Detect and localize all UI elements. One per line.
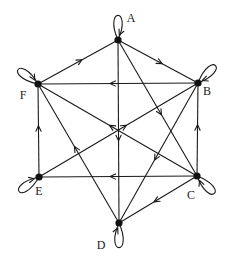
- edge-line: [38, 84, 119, 223]
- node-A: [114, 36, 121, 43]
- loop-curve: [115, 223, 123, 248]
- edge-line: [197, 83, 198, 176]
- edge-line: [39, 176, 197, 177]
- node-label-D: D: [97, 238, 106, 252]
- edge-C-to-B: [195, 83, 200, 176]
- edge-line: [38, 40, 118, 84]
- node-label-F: F: [20, 88, 27, 102]
- self-loop-D: [113, 223, 123, 248]
- edge-line: [118, 40, 119, 223]
- node-label-E: E: [35, 184, 42, 198]
- edge-C-to-E: [39, 174, 197, 179]
- directed-graph: ABCDEF: [0, 0, 233, 261]
- self-loop-F: [18, 68, 38, 84]
- edge-B-to-D: [119, 83, 198, 223]
- node-B: [194, 79, 201, 86]
- edge-E-to-F: [36, 84, 41, 177]
- loop-curve: [197, 176, 215, 194]
- self-loop-C: [197, 176, 215, 194]
- edge-line: [38, 84, 39, 177]
- self-loop-B: [198, 65, 216, 83]
- edge-C-to-D: [119, 176, 197, 223]
- edge-line: [119, 83, 198, 223]
- loop-curve: [114, 15, 122, 40]
- self-loop-A: [114, 15, 124, 40]
- node-E: [35, 173, 42, 180]
- loop-curve: [198, 65, 216, 83]
- edge-F-to-A: [38, 40, 118, 84]
- edge-line: [119, 176, 197, 223]
- edges-group: [36, 40, 200, 223]
- node-C: [193, 172, 200, 179]
- node-D: [115, 219, 122, 226]
- node-label-C: C: [187, 188, 195, 202]
- edge-D-to-F: [38, 84, 119, 223]
- node-label-A: A: [127, 11, 136, 25]
- node-label-B: B: [203, 84, 211, 98]
- node-F: [34, 80, 41, 87]
